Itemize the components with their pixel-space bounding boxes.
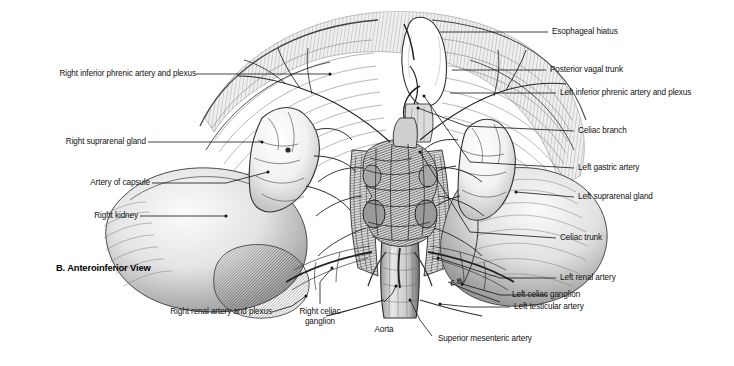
label-right-celiac-ganglion-line2: ganglion <box>305 317 335 326</box>
label-right-celiac-ganglion: Right celiac ganglion <box>282 307 358 327</box>
label-posterior-vagal-trunk: Posterior vagal trunk <box>550 65 623 75</box>
figure-caption: B. Anteroinferior View <box>56 262 151 273</box>
label-left-gastric-artery: Left gastric artery <box>578 163 639 173</box>
label-celiac-trunk: Celiac trunk <box>560 233 602 243</box>
label-left-suprarenal-gland: Left suprarenal gland <box>578 192 653 202</box>
label-superior-mesenteric-artery: Superior mesenteric artery <box>438 334 532 344</box>
label-left-celiac-ganglion: Left celiac ganglion <box>512 290 580 300</box>
label-right-celiac-ganglion-line1: Right celiac <box>299 307 340 316</box>
label-artery-of-capsule: Artery of capsule <box>60 178 150 188</box>
label-left-renal-artery: Left renal artery <box>560 273 616 283</box>
right-suprarenal-gland-shape <box>249 108 356 212</box>
label-right-renal-artery-and-plexus: Right renal artery and plexus <box>148 307 272 317</box>
anatomy-figure: Right inferior phrenic artery and plexus… <box>0 0 734 366</box>
label-right-inferior-phrenic-artery-and-plexus: Right inferior phrenic artery and plexus <box>18 69 196 79</box>
label-aorta: Aorta <box>362 325 406 335</box>
label-right-kidney: Right kidney <box>66 211 138 221</box>
label-right-suprarenal-gland: Right suprarenal gland <box>40 137 146 147</box>
label-left-inferior-phrenic-artery-and-plexus: Left inferior phrenic artery and plexus <box>560 88 691 98</box>
label-celiac-branch: Celiac branch <box>578 126 627 136</box>
label-esophageal-hiatus: Esophageal hiatus <box>552 27 618 37</box>
label-left-testicular-artery: Left testicular artery <box>514 302 584 312</box>
